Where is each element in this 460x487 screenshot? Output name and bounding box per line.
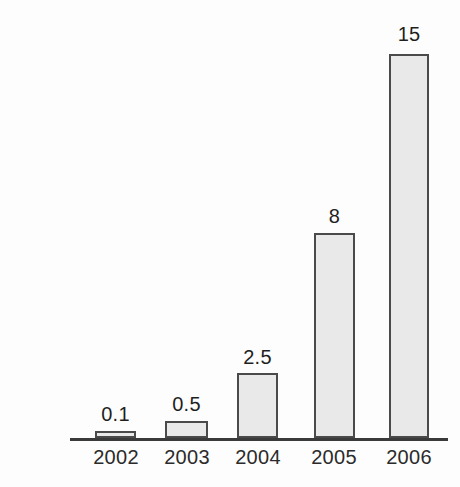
bar-2002 [95, 431, 136, 438]
x-tick-label-2006: 2006 [369, 445, 449, 469]
bar-value-label-2003: 0.5 [147, 394, 227, 414]
bar-chart: 0.1 0.5 2.5 8 15 2002 2003 2004 2005 200… [0, 0, 460, 487]
x-tick-label-2002: 2002 [76, 445, 156, 469]
bar-value-label-2002: 0.1 [76, 404, 156, 424]
x-tick-label-2003: 2003 [147, 445, 227, 469]
bar-2005 [314, 233, 355, 438]
x-tick-label-2005: 2005 [294, 445, 374, 469]
bar-value-label-2005: 8 [295, 206, 375, 226]
plot-area: 0.1 0.5 2.5 8 15 2002 2003 2004 2005 200… [0, 0, 460, 487]
bar-value-label-2004: 2.5 [218, 347, 298, 367]
x-axis-line [70, 438, 448, 441]
bar-2003 [165, 421, 208, 438]
bar-2004 [237, 373, 278, 438]
bar-2006 [389, 54, 429, 438]
x-tick-label-2004: 2004 [218, 445, 298, 469]
bar-value-label-2006: 15 [369, 24, 449, 44]
